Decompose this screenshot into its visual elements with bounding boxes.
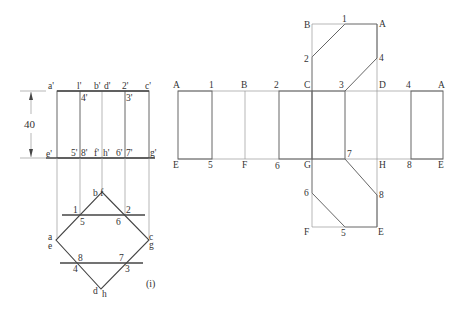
flap-label-A: A xyxy=(379,19,386,29)
plan-view xyxy=(56,192,149,289)
label-g: g xyxy=(149,240,154,250)
label-plan-4: 4 xyxy=(73,264,78,274)
label-plan-5: 5 xyxy=(80,217,85,227)
dev-label-C: C xyxy=(304,80,310,90)
dev-label-2: 2 xyxy=(274,80,279,90)
orthographic-drawing: 40 a' l' b' d' 2' c' 4' 3' e' 5' 8' f' h… xyxy=(0,0,465,313)
arrow-up-icon xyxy=(29,92,33,100)
label-d: d xyxy=(93,286,98,296)
dev-label-E: E xyxy=(173,160,179,170)
dev-label-A-end: A xyxy=(438,80,445,90)
label-d-prime: d' xyxy=(104,81,111,91)
label-c-prime: c' xyxy=(145,81,151,91)
label-g-prime: g' xyxy=(150,148,157,158)
flap-label-2: 2 xyxy=(304,54,309,64)
flap-label-4: 4 xyxy=(379,53,384,63)
arrow-down-icon xyxy=(29,149,33,157)
label-e: e xyxy=(48,241,52,251)
dimension-label: 40 xyxy=(24,118,36,130)
figure-caption: (i) xyxy=(146,278,155,290)
label-2-prime: 2' xyxy=(122,81,129,91)
label-h-prime: h' xyxy=(103,148,110,158)
flap-label-5: 5 xyxy=(341,228,346,238)
label-plan-6: 6 xyxy=(116,217,121,227)
label-e-prime: e' xyxy=(46,149,52,159)
dev-label-G: G xyxy=(304,160,311,170)
label-b-prime: b' xyxy=(94,81,101,91)
dimension-40: 40 xyxy=(20,91,46,158)
dev-label-D: D xyxy=(379,80,386,90)
development-view xyxy=(178,24,443,227)
dev-label-7: 7 xyxy=(347,149,352,159)
dev-label-A: A xyxy=(173,80,180,90)
label-bf: b f xyxy=(93,188,104,198)
label-a-prime: a' xyxy=(48,81,54,91)
flap-label-1: 1 xyxy=(342,14,347,24)
label-plan-2: 2 xyxy=(126,205,131,215)
flap-label-F: F xyxy=(304,227,309,237)
dev-label-H: H xyxy=(379,160,386,170)
label-plan-1: 1 xyxy=(73,205,78,215)
dev-label-4: 4 xyxy=(406,80,411,90)
flap-label-B: B xyxy=(304,20,310,30)
label-5-prime: 5' xyxy=(71,148,78,158)
flap-label-6: 6 xyxy=(304,188,309,198)
dev-label-E-end: E xyxy=(438,160,444,170)
dev-label-B: B xyxy=(241,80,247,90)
label-3-prime: 3' xyxy=(126,93,133,103)
label-8-prime: 8' xyxy=(81,148,88,158)
label-6-prime: 6' xyxy=(116,148,123,158)
dev-label-8: 8 xyxy=(407,160,412,170)
dev-label-1: 1 xyxy=(209,80,214,90)
label-7-prime: 7' xyxy=(126,148,133,158)
label-plan-8: 8 xyxy=(78,253,83,263)
dev-label-5: 5 xyxy=(208,160,213,170)
dev-label-6: 6 xyxy=(275,161,280,171)
flap-label-8: 8 xyxy=(379,190,384,200)
flap-label-E: E xyxy=(378,227,384,237)
label-f-prime: f' xyxy=(94,148,99,158)
label-plan-7: 7 xyxy=(119,253,124,263)
dev-label-3: 3 xyxy=(339,80,344,90)
label-1-prime: l' xyxy=(77,81,82,91)
label-h: h xyxy=(102,289,107,299)
elevation-view xyxy=(46,91,155,238)
label-plan-3: 3 xyxy=(125,264,130,274)
dev-label-F: F xyxy=(242,160,247,170)
label-4-prime: 4' xyxy=(81,93,88,103)
